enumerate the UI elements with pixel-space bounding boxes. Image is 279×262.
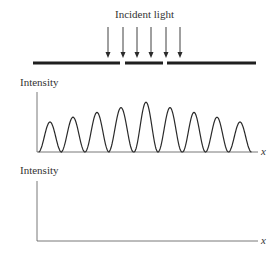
arrowhead-icon <box>178 52 183 58</box>
diagram-canvas <box>0 0 279 262</box>
bottom-axes <box>37 181 258 241</box>
arrowhead-icon <box>121 52 126 58</box>
arrowhead-icon <box>106 52 111 58</box>
top-x-axis-label: x <box>261 145 266 157</box>
arrowhead-icon <box>149 52 154 58</box>
incident-light-label: Incident light <box>115 8 174 20</box>
top-y-axis-label: Intensity <box>20 76 59 88</box>
bottom-x-axis-label: x <box>261 234 266 246</box>
arrowhead-icon <box>135 52 140 58</box>
interference-curve <box>39 102 252 152</box>
incident-arrows <box>106 27 183 58</box>
arrowhead-icon <box>164 52 169 58</box>
bottom-y-axis-label: Intensity <box>20 164 59 176</box>
